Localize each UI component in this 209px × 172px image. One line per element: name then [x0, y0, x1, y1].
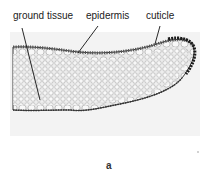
- ground-tissue-label: ground tissue: [13, 10, 73, 22]
- leaf-cross-section-diagram: [0, 0, 209, 172]
- speck: [197, 151, 199, 153]
- epidermis-label: epidermis: [86, 10, 129, 22]
- cuticle-label: cuticle: [146, 10, 174, 22]
- panel-letter: a: [106, 160, 112, 171]
